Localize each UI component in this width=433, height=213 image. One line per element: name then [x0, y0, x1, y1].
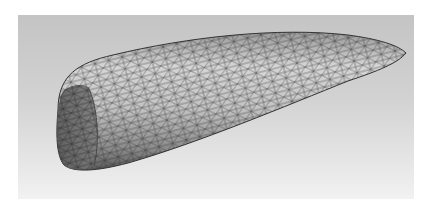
render-viewport — [18, 15, 414, 199]
mesh-end-cap — [57, 85, 97, 170]
mesh-render — [18, 15, 414, 199]
